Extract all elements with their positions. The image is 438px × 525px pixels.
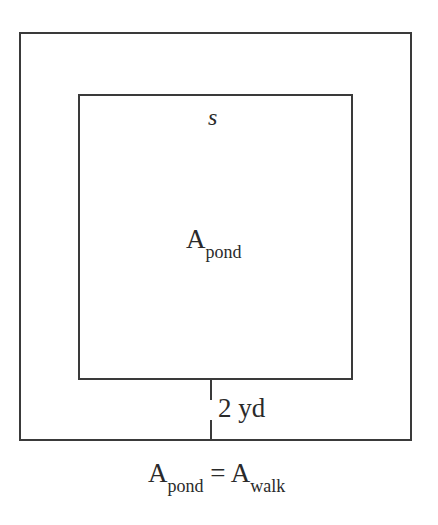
pond-area-main: A xyxy=(186,224,206,254)
eq-operator: = xyxy=(210,458,225,488)
dimension-tick-top xyxy=(210,380,212,400)
area-equation: Apond = Awalk xyxy=(148,458,285,489)
eq-left-main: A xyxy=(148,458,168,488)
walk-width-label: 2 yd xyxy=(218,393,265,424)
pond-area-sub: pond xyxy=(206,242,242,262)
eq-right-main: A xyxy=(231,458,251,488)
eq-right-sub: walk xyxy=(250,476,285,496)
dimension-tick-bottom xyxy=(210,420,212,440)
side-length-label: s xyxy=(208,104,217,131)
eq-left-sub: pond xyxy=(168,476,204,496)
pond-area-label: Apond xyxy=(186,224,242,255)
